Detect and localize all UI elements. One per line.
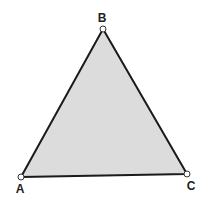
vertex-b-label: B — [98, 11, 107, 25]
vertex-a-point — [18, 174, 24, 180]
triangle-diagram: A B C — [0, 0, 203, 207]
vertex-c-point — [184, 171, 190, 177]
vertex-a-label: A — [16, 182, 25, 196]
vertex-c-label: C — [187, 179, 196, 193]
vertex-b-point — [100, 26, 106, 32]
triangle-abc — [21, 29, 187, 177]
